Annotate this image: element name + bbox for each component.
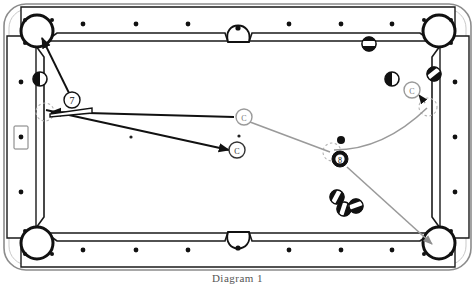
ball-top-stripe <box>362 37 376 51</box>
table-outer-frame <box>4 4 471 270</box>
cue-ball-position-3: C <box>404 82 420 98</box>
diamond-top-5 <box>339 22 344 27</box>
cue-ball-position-1: C <box>236 109 252 125</box>
cue-ball-position-2: C <box>229 142 245 158</box>
diamond-left-2 <box>19 135 24 140</box>
diamond-top-3 <box>186 22 191 27</box>
diamond-bottom-5 <box>339 248 344 253</box>
diamond-bottom-2 <box>134 248 139 253</box>
diamond-bottom-6 <box>390 248 395 253</box>
diamond-left-3 <box>19 190 24 195</box>
diamond-right-3 <box>453 190 458 195</box>
ball-left-rail-half <box>33 72 47 86</box>
ball-7-label: 7 <box>70 95 75 106</box>
diamond-bottom-4 <box>287 248 292 253</box>
diamond-top-1 <box>81 22 86 27</box>
cue-ball-position-1-label: C <box>241 114 246 123</box>
diamond-bottom-1 <box>81 248 86 253</box>
diamond-left-1 <box>19 80 24 85</box>
table-spot-center <box>237 134 240 137</box>
ball-small-dark <box>337 136 345 144</box>
ball-8-label: 8 <box>338 156 342 165</box>
ball-7: 7 <box>64 92 80 108</box>
diamond-right-2 <box>453 135 458 140</box>
ball-right-rail-stripe <box>427 67 441 81</box>
diamond-bottom-3 <box>186 248 191 253</box>
ball-right-half <box>385 72 399 86</box>
diamond-top-6 <box>390 22 395 27</box>
table-spot-left <box>129 135 132 138</box>
diamond-top-4 <box>287 22 292 27</box>
pool-table-diagram: 7 8 <box>0 0 475 285</box>
figure-container: 7 8 <box>0 0 475 285</box>
ball-cluster-c <box>348 199 363 213</box>
diamond-top-2 <box>134 22 139 27</box>
cue-ball-position-2-label: C <box>234 147 239 156</box>
figure-caption: Diagram 1 <box>0 272 475 284</box>
ball-8: 8 <box>332 151 348 167</box>
diamond-right-1 <box>453 80 458 85</box>
cue-ball-position-3-label: C <box>409 87 414 96</box>
